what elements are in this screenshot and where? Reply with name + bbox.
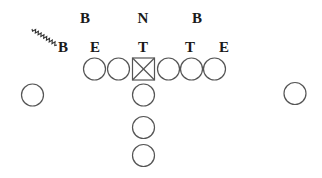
def-e-left-label: E: [90, 39, 100, 55]
def-b-right-label: B: [192, 10, 202, 26]
right-guard-circle-icon: [158, 58, 180, 80]
split-end-left-circle-icon: [22, 84, 44, 106]
quarterback-circle-icon: [133, 84, 155, 106]
play-diagram: BBENTBTE: [0, 0, 322, 178]
def-t-right-label: T: [185, 39, 195, 55]
def-e-right-label: E: [219, 39, 229, 55]
tight-end-circle-icon: [204, 58, 226, 80]
motion-zigzag-line: [32, 29, 57, 45]
def-t-left-label: T: [138, 39, 148, 55]
flanker-right-circle-icon: [284, 83, 306, 105]
left-guard-circle-icon: [108, 58, 130, 80]
right-tackle-circle-icon: [181, 58, 203, 80]
fullback-circle-icon: [133, 117, 155, 139]
center-square-icon: [133, 58, 155, 80]
def-b-left-label: B: [80, 10, 90, 26]
tailback-circle-icon: [133, 145, 155, 167]
def-b-left-outside-label: B: [58, 39, 68, 55]
def-n-label: N: [138, 10, 149, 26]
left-tackle-circle-icon: [84, 58, 106, 80]
